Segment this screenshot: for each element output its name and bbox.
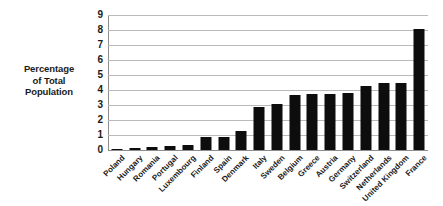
bar[interactable]	[414, 29, 425, 151]
bar-slot	[392, 15, 410, 150]
y-tick-label-5: 5	[97, 70, 103, 80]
y-tick-label-6: 6	[97, 55, 103, 65]
bar[interactable]	[325, 94, 336, 150]
bar[interactable]	[271, 104, 282, 151]
x-axis-labels: PolandHungaryRomaniaPortugalLuxembourgFi…	[108, 152, 428, 206]
bar-slot	[179, 15, 197, 150]
bar-slot	[126, 15, 144, 150]
bar-slot	[286, 15, 304, 150]
y-axis-title: Percentage of Total Population	[8, 63, 90, 98]
y-tick-label-7: 7	[97, 40, 103, 50]
bar[interactable]	[342, 93, 353, 150]
y-axis-title-line-3: Population	[8, 86, 90, 98]
y-tick-label-3: 3	[97, 100, 103, 110]
bar[interactable]	[165, 146, 176, 151]
y-axis-title-line-1: Percentage	[8, 63, 90, 75]
y-tick-label-4: 4	[97, 85, 103, 95]
y-tick-label-1: 1	[97, 130, 103, 140]
bar[interactable]	[200, 137, 211, 150]
bar[interactable]	[378, 83, 389, 150]
y-tick-label-9: 9	[97, 10, 103, 20]
bar[interactable]	[182, 145, 193, 150]
bar-chart: Percentage of Total Population 012345678…	[0, 0, 443, 206]
bar[interactable]	[147, 147, 158, 150]
bar-slot	[268, 15, 286, 150]
bar[interactable]	[307, 94, 318, 150]
bar-slot	[215, 15, 233, 150]
y-tick-label-0: 0	[97, 145, 103, 155]
bar[interactable]	[289, 95, 300, 151]
bar[interactable]	[396, 83, 407, 151]
y-tick-label-8: 8	[97, 25, 103, 35]
bar[interactable]	[111, 149, 122, 150]
bar-slot	[197, 15, 215, 150]
bar[interactable]	[236, 131, 247, 150]
bar-slot	[161, 15, 179, 150]
bar-slot	[250, 15, 268, 150]
y-axis-title-line-2: of Total	[8, 75, 90, 87]
bar[interactable]	[129, 148, 140, 150]
bar-slot	[144, 15, 162, 150]
bar-slot	[232, 15, 250, 150]
bar-slot	[108, 15, 126, 150]
bar[interactable]	[218, 137, 229, 151]
y-tick-label-2: 2	[97, 115, 103, 125]
bar[interactable]	[360, 86, 371, 150]
bars-layer	[108, 15, 428, 150]
bar-slot	[321, 15, 339, 150]
bar-slot	[357, 15, 375, 150]
bar-slot	[339, 15, 357, 150]
plot-area: 0123456789	[108, 15, 428, 150]
gridline-0	[108, 150, 428, 151]
bar-slot	[410, 15, 428, 150]
bar[interactable]	[254, 107, 265, 150]
bar-slot	[304, 15, 322, 150]
bar-slot	[375, 15, 393, 150]
